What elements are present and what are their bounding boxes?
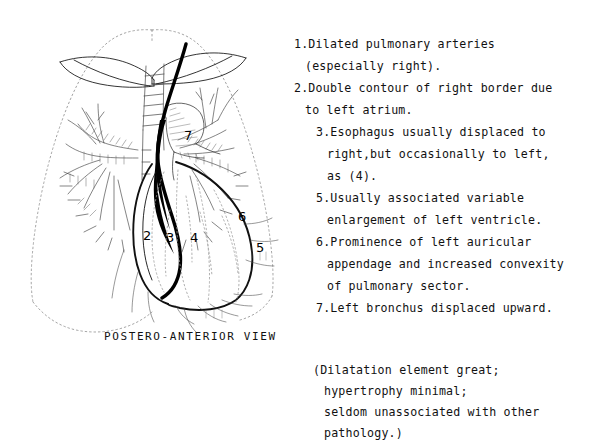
legend-line: 3.Esophagus usually displaced to [294,121,604,143]
note-line: (Dilatation element great; [313,360,603,381]
callout-3: 3 [166,230,174,245]
callout-4: 4 [190,230,198,245]
legend-line: as (4). [294,165,604,187]
legend-line: 6.Prominence of left auricular [294,231,604,253]
legend-line: 5.Usually associated variable [294,187,604,209]
note-line: pathology.) [313,423,603,444]
legend-line: 2.Double contour of right border due [294,77,604,99]
legend-line: enlargement of left ventricle. [294,209,604,231]
callout-2: 2 [143,228,151,243]
legend-line: to left atrium. [294,99,604,121]
view-caption: POSTERO-ANTERIOR VIEW [104,330,277,343]
legend-line: (especially right). [294,55,604,77]
esophagus-line [157,44,186,298]
legend-line: appendage and increased convexity [294,253,604,275]
legend-line: 7.Left bronchus displaced upward. [294,297,604,319]
callout-7: 7 [184,128,192,143]
note-line: seldom unassociated with other [313,402,603,423]
callout-6: 6 [238,209,246,224]
chest-illustration: 2 3 4 5 6 7 [0,0,300,360]
left-bronchial-tree [178,88,248,252]
clavicles [60,53,246,87]
legend-line: right,but occasionally to left, [294,143,604,165]
legend-line: 1.Dilated pulmonary arteries [294,33,604,55]
legend-line: of pulmonary sector. [294,275,604,297]
findings-legend: 1.Dilated pulmonary arteries (especially… [294,33,604,319]
summary-note: (Dilatation element great; hypertrophy m… [313,360,603,444]
callout-5: 5 [256,240,264,255]
note-line: hypertrophy minimal; [313,381,603,402]
right-bronchial-tree [60,104,138,252]
